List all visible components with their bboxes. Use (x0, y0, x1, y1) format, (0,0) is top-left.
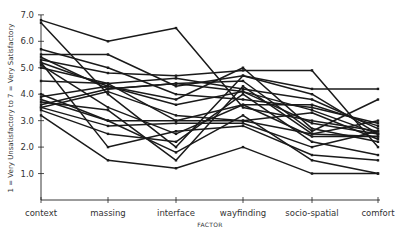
data-point-marker (107, 106, 109, 108)
data-point-marker (377, 119, 379, 121)
data-point-marker (175, 104, 177, 106)
data-point-marker (242, 119, 244, 121)
y-tick-label: 6.0 (20, 36, 34, 46)
data-point-marker (377, 88, 379, 90)
data-point-marker (107, 146, 109, 148)
data-point-marker (377, 125, 379, 127)
data-point-marker (107, 53, 109, 55)
data-point-marker (175, 93, 177, 95)
data-point-marker (175, 167, 177, 169)
data-point-marker (40, 48, 42, 50)
data-point-marker (377, 141, 379, 143)
data-point-marker (107, 109, 109, 111)
data-point-marker (107, 90, 109, 92)
x-tick-label: massing (90, 208, 126, 218)
data-point-marker (242, 74, 244, 76)
data-point-marker (377, 127, 379, 129)
data-point-marker (242, 93, 244, 95)
data-point-marker (242, 90, 244, 92)
y-tick-label: 5.0 (20, 63, 34, 73)
data-point-marker (175, 82, 177, 84)
data-point-marker (40, 106, 42, 108)
data-point-marker (377, 154, 379, 156)
data-point-marker (40, 61, 42, 63)
data-point-marker (242, 104, 244, 106)
data-point-marker (175, 74, 177, 76)
data-point-marker (311, 104, 313, 106)
data-point-marker (242, 69, 244, 71)
data-point-marker (377, 135, 379, 137)
data-point-marker (107, 88, 109, 90)
data-point-marker (107, 82, 109, 84)
series-lines (40, 19, 379, 175)
data-point-marker (311, 122, 313, 124)
data-point-marker (377, 172, 379, 174)
data-point-marker (242, 122, 244, 124)
data-point-marker (107, 159, 109, 161)
data-point-marker (242, 146, 244, 148)
data-point-marker (175, 141, 177, 143)
data-point-marker (311, 159, 313, 161)
data-point-marker (40, 104, 42, 106)
data-point-marker (311, 98, 313, 100)
data-point-marker (311, 133, 313, 135)
data-point-marker (175, 98, 177, 100)
data-point-marker (242, 98, 244, 100)
data-point-marker (175, 133, 177, 135)
data-point-marker (40, 53, 42, 55)
data-point-marker (377, 146, 379, 148)
y-axis-label: 1 = Very Unsatisfactory to 7 = Very Sati… (7, 24, 15, 193)
data-point-marker (311, 141, 313, 143)
data-point-marker (311, 109, 313, 111)
y-tick-label: 2.0 (20, 142, 34, 152)
data-point-marker (40, 80, 42, 82)
line-chart: 1.02.03.04.05.06.07.0 contextmassinginte… (0, 0, 397, 243)
data-point-marker (311, 172, 313, 174)
data-point-marker (107, 40, 109, 42)
data-point-marker (175, 114, 177, 116)
data-point-marker (311, 130, 313, 132)
data-point-marker (175, 151, 177, 153)
y-tick-label: 7.0 (20, 10, 34, 20)
data-point-marker (175, 130, 177, 132)
data-point-marker (175, 27, 177, 29)
data-point-marker (311, 112, 313, 114)
data-point-marker (40, 101, 42, 103)
data-point-marker (40, 59, 42, 61)
data-point-marker (175, 85, 177, 87)
data-point-marker (40, 67, 42, 69)
y-tick-label: 4.0 (20, 89, 34, 99)
data-point-marker (377, 122, 379, 124)
data-point-marker (311, 119, 313, 121)
data-point-marker (40, 93, 42, 95)
data-point-marker (40, 56, 42, 58)
data-point-marker (107, 133, 109, 135)
x-tick-label: interface (157, 208, 195, 218)
y-tick-label: 1.0 (20, 169, 34, 179)
data-point-marker (107, 72, 109, 74)
data-point-marker (377, 98, 379, 100)
x-tick-label: context (25, 208, 58, 218)
x-tick-label: comfort (361, 208, 395, 218)
data-point-marker (175, 77, 177, 79)
data-point-marker (242, 80, 244, 82)
data-point-marker (242, 85, 244, 87)
data-point-marker (242, 114, 244, 116)
data-point-marker (311, 69, 313, 71)
x-tick-label: socio-spatial (285, 208, 338, 218)
data-point-marker (175, 146, 177, 148)
data-point-marker (175, 159, 177, 161)
y-tick-label: 3.0 (20, 116, 34, 126)
data-point-marker (311, 88, 313, 90)
data-point-marker (377, 138, 379, 140)
data-point-marker (311, 154, 313, 156)
data-point-marker (40, 96, 42, 98)
data-point-marker (40, 114, 42, 116)
data-point-marker (311, 93, 313, 95)
data-point-marker (311, 127, 313, 129)
data-point-marker (40, 98, 42, 100)
data-point-marker (107, 85, 109, 87)
data-point-marker (107, 93, 109, 95)
data-point-marker (175, 122, 177, 124)
data-point-marker (377, 130, 379, 132)
